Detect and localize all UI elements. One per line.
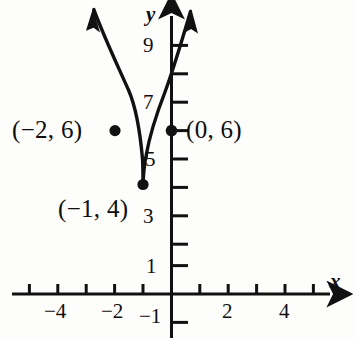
- point-0-6: [166, 125, 178, 137]
- x-tick-label-neg4: −4: [44, 301, 66, 322]
- y-tick-label-7: 7: [143, 92, 154, 113]
- graph-figure: y x 9 7 5 3 1 −1 −4 −2 2 4 (−2, 6) (−1, …: [0, 0, 354, 342]
- y-tick-label-neg1: −1: [139, 306, 161, 327]
- point-neg1-4: [137, 179, 148, 190]
- y-tick-label-5: 5: [145, 149, 156, 170]
- point-label-0-6: (0, 6): [186, 117, 242, 142]
- point-neg2-6: [109, 125, 120, 136]
- point-label-neg2-6: (−2, 6): [12, 117, 82, 142]
- coordinate-plane-svg: [0, 0, 354, 342]
- x-tick-label-neg2: −2: [101, 301, 123, 322]
- y-tick-label-9: 9: [143, 35, 154, 56]
- point-label-neg1-4: (−1, 4): [58, 196, 128, 221]
- x-axis-label: x: [330, 271, 341, 292]
- y-axis-label: y: [146, 4, 155, 25]
- y-tick-label-1: 1: [146, 256, 157, 277]
- y-axis-ticks: [172, 45, 189, 322]
- y-tick-label-3: 3: [143, 206, 154, 227]
- x-tick-label-4: 4: [279, 301, 290, 322]
- x-tick-label-2: 2: [222, 301, 233, 322]
